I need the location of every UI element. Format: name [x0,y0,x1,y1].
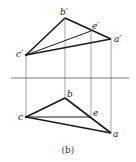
label-b-prime: b′ [60,7,68,17]
label-a: a [113,129,118,139]
point-c [25,116,27,118]
label-c: c [18,112,23,122]
label-b: b [67,89,73,99]
orthographic-projection-diagram: b′ e′ a′ c′ b e a c (b) [0,0,136,162]
label-e-prime: e′ [92,21,99,31]
label-a-prime: a′ [114,34,121,44]
front-line-ce [26,31,91,55]
figure-caption: (b) [62,145,75,155]
label-c-prime: c′ [16,49,23,59]
label-e: e [93,108,98,118]
point-c-prime [25,54,27,56]
